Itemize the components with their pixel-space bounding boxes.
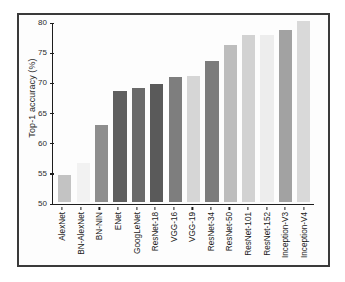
- bar-resnet-101[interactable]: [242, 35, 255, 202]
- x-tick-mark: [210, 207, 211, 210]
- y-tick-mark: [50, 173, 54, 174]
- y-tick-label: 70: [38, 78, 47, 87]
- y-tick-mark: [50, 23, 54, 24]
- y-tick-label: 80: [38, 18, 47, 27]
- bar-resnet-34[interactable]: [205, 61, 218, 202]
- bar-resnet-50[interactable]: [224, 45, 237, 202]
- x-label-slot: Inception-V4: [295, 207, 314, 281]
- x-label-slot: BN-AlexNet: [72, 207, 91, 281]
- bar-slot: [203, 20, 221, 202]
- bar-inception-v3[interactable]: [279, 30, 292, 203]
- x-tick-mark: [192, 207, 193, 210]
- bar-resnet-152[interactable]: [260, 35, 273, 202]
- y-tick-mark: [50, 53, 54, 54]
- bar-slot: [221, 20, 239, 202]
- x-tick-mark: [80, 207, 81, 210]
- x-label-slot: ResNet-101: [239, 207, 258, 281]
- y-tick-label: 75: [38, 48, 47, 57]
- bar-alexnet[interactable]: [58, 175, 71, 203]
- x-label-slot: Inception-V3: [276, 207, 295, 281]
- bar-vgg-19[interactable]: [187, 76, 200, 202]
- x-tick-mark: [303, 207, 304, 210]
- y-tick-label: 65: [38, 109, 47, 118]
- x-tick-mark: [62, 207, 63, 210]
- x-tick-mark: [136, 207, 137, 210]
- bar-googlenet[interactable]: [132, 88, 145, 202]
- bar-slot: [276, 20, 294, 202]
- x-label-slot: VGG-19: [183, 207, 202, 281]
- y-axis-label: Top-1 accuracy (%): [27, 38, 37, 158]
- x-tick-mark: [247, 207, 248, 210]
- x-tick-label-resnet-101: ResNet-101: [244, 212, 253, 256]
- x-label-slot: ResNet-152: [257, 207, 276, 281]
- x-tick-mark: [117, 207, 118, 210]
- x-tick-label-enet: ENet: [114, 212, 123, 230]
- y-tick-mark: [50, 143, 54, 144]
- bar-slot: [240, 20, 258, 202]
- bar-enet[interactable]: [113, 91, 126, 203]
- x-tick-label-alexnet: AlexNet: [58, 212, 67, 241]
- bar-slot: [295, 20, 313, 202]
- bar-bn-alexnet[interactable]: [77, 163, 90, 202]
- x-label-slot: ResNet-34: [202, 207, 221, 281]
- bar-slot: [74, 20, 92, 202]
- x-tick-mark: [266, 207, 267, 210]
- x-tick-mark: [155, 207, 156, 210]
- y-tick-mark: [50, 113, 54, 114]
- x-tick-label-googlenet: GoogLeNet: [132, 212, 141, 254]
- x-tick-label-inception-v3: Inception-V3: [281, 212, 290, 258]
- x-tick-label-bn-nin: BN-NIN: [95, 212, 104, 240]
- x-tick-mark: [229, 207, 230, 210]
- x-tick-label-vgg-19: VGG-19: [188, 212, 197, 242]
- y-tick-label: 60: [38, 139, 47, 148]
- x-tick-mark: [285, 207, 286, 210]
- bar-slot: [166, 20, 184, 202]
- plot-area: 50556065707580: [52, 23, 314, 205]
- bar-slot: [111, 20, 129, 202]
- bar-bn-nin[interactable]: [95, 125, 108, 203]
- x-label-slot: ResNet-18: [146, 207, 165, 281]
- x-tick-label-inception-v4: Inception-V4: [299, 212, 308, 258]
- bar-slot: [148, 20, 166, 202]
- y-tick-label: 50: [38, 199, 47, 208]
- x-label-slot: BN-NIN: [90, 207, 109, 281]
- x-tick-mark: [173, 207, 174, 210]
- bar-inception-v4[interactable]: [297, 21, 310, 202]
- x-tick-mark: [99, 207, 100, 210]
- x-tick-label-resnet-152: ResNet-152: [262, 212, 271, 256]
- chart-figure: Top-1 accuracy (%) 50556065707580 AlexNe…: [17, 13, 330, 267]
- x-axis-labels: AlexNetBN-AlexNetBN-NINENetGoogLeNetResN…: [52, 207, 314, 281]
- bar-slot: [129, 20, 147, 202]
- y-tick-mark: [50, 83, 54, 84]
- bar-slot: [184, 20, 202, 202]
- bar-slot: [258, 20, 276, 202]
- bar-vgg-16[interactable]: [169, 77, 182, 202]
- x-label-slot: VGG-16: [164, 207, 183, 281]
- bar-series: [55, 20, 314, 202]
- x-tick-label-vgg-16: VGG-16: [169, 212, 178, 242]
- y-tick-label: 55: [38, 169, 47, 178]
- y-tick-mark: [50, 204, 54, 205]
- x-label-slot: GoogLeNet: [127, 207, 146, 281]
- x-tick-label-resnet-50: ResNet-50: [225, 212, 234, 251]
- x-tick-label-resnet-18: ResNet-18: [151, 212, 160, 251]
- x-label-slot: ENet: [109, 207, 128, 281]
- bar-resnet-18[interactable]: [150, 84, 163, 202]
- x-label-slot: AlexNet: [53, 207, 72, 281]
- bar-slot: [56, 20, 74, 202]
- x-label-slot: ResNet-50: [220, 207, 239, 281]
- x-tick-label-bn-alexnet: BN-AlexNet: [76, 212, 85, 255]
- bar-slot: [92, 20, 110, 202]
- x-tick-label-resnet-34: ResNet-34: [206, 212, 215, 251]
